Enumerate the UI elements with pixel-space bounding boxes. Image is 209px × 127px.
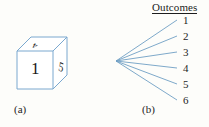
outcomes-title: Outcomes: [152, 1, 197, 13]
outcome-value-4: 4: [183, 63, 189, 74]
outcomes-title-text: Outcomes: [152, 1, 197, 14]
outcome-value-2: 2: [183, 31, 189, 42]
outcome-value-3: 3: [183, 47, 189, 58]
outcome-value-5: 5: [183, 79, 189, 90]
die-face-front-value: 1: [31, 60, 40, 77]
panel-a-die: 1 4 5 (a): [0, 0, 95, 127]
fan-branch-2: [116, 36, 177, 61]
fan-branch-3: [116, 52, 177, 61]
panel-b-outcome-fan: Outcomes 123456 (b): [95, 0, 209, 127]
cube-drawing: [10, 34, 80, 96]
caption-b: (b): [142, 104, 155, 115]
outcome-value-1: 1: [183, 15, 189, 26]
fan-branch-1: [116, 20, 177, 61]
caption-a: (a): [14, 104, 26, 115]
outcome-value-6: 6: [183, 95, 189, 106]
probability-figure: 1 4 5 (a) Outcomes 123456 (b): [0, 0, 209, 127]
